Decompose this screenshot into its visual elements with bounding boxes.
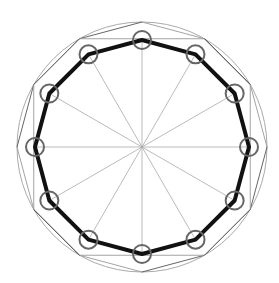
radial-spokes: [35, 40, 249, 254]
construction-edge: [205, 39, 251, 85]
dodecagon-diagram: [0, 0, 279, 283]
outer-dodecagon-edge: [17, 85, 34, 148]
outer-dodecagon-edge: [250, 85, 267, 148]
outer-dodecagon-edge: [80, 22, 143, 39]
outer-dodecagon-edge: [142, 255, 205, 272]
construction-edge: [34, 39, 80, 85]
construction-edge: [34, 210, 80, 256]
outer-dodecagon-edge: [80, 255, 143, 272]
construction-edge: [205, 210, 251, 256]
outer-dodecagon-edge: [17, 147, 34, 210]
outer-dodecagon-edge: [250, 147, 267, 210]
outer-dodecagon-edge: [142, 22, 205, 39]
